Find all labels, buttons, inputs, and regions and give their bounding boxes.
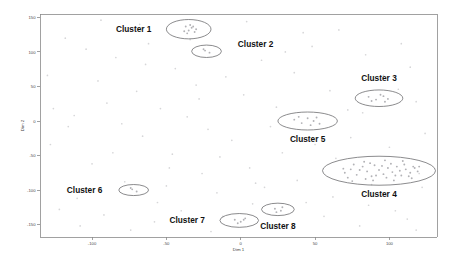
cluster-scatter-point (244, 217, 246, 219)
scatter-point (76, 197, 78, 199)
scatter-point (148, 43, 150, 45)
cluster-scatter-chart: Cluster 1Cluster 2Cluster 3Cluster 4Clus… (0, 0, 458, 265)
cluster-label: Cluster 7 (169, 215, 205, 225)
cluster-scatter-point (383, 95, 385, 97)
cluster-ellipse (262, 203, 295, 215)
cluster-scatter-point (183, 30, 185, 32)
scatter-point (332, 196, 334, 198)
scatter-point (198, 98, 200, 100)
scatter-point (350, 137, 352, 139)
cluster-scatter-point (387, 98, 389, 100)
cluster-scatter-point (380, 94, 382, 96)
scatter-plot-figure: Cluster 1Cluster 2Cluster 3Cluster 4Clus… (0, 0, 458, 265)
scatter-point (136, 90, 138, 92)
cluster-ellipse (166, 20, 211, 39)
cluster-scatter-point (359, 169, 361, 171)
cluster-scatter-point (274, 208, 276, 210)
scatter-point (216, 192, 218, 194)
cluster-scatter-point (310, 124, 312, 126)
scatter-point (219, 156, 221, 158)
y-tick-label: -50 (29, 153, 36, 158)
cluster-scatter-point (387, 167, 389, 169)
scatter-point (284, 51, 286, 53)
cluster-scatter-point (363, 161, 365, 163)
cluster-scatter-point (403, 164, 405, 166)
scatter-point (261, 59, 263, 61)
scatter-point (115, 57, 117, 59)
y-tick-label: -100 (27, 188, 36, 193)
scatter-point (323, 215, 325, 217)
cluster-scatter-point (356, 174, 358, 176)
cluster-scatter-point (275, 211, 277, 213)
scatter-point (85, 48, 87, 50)
scatter-point (112, 152, 114, 154)
cluster-label: Cluster 3 (361, 73, 397, 83)
cluster-scatter-point (408, 175, 410, 177)
cluster-ellipse (355, 90, 403, 107)
scatter-point (142, 135, 144, 137)
scatter-point (406, 218, 408, 220)
scatter-point (225, 76, 227, 78)
cluster-scatter-point (195, 28, 197, 30)
scatter-point (186, 116, 188, 118)
cluster-scatter-point (350, 168, 352, 170)
scatter-point (174, 68, 176, 70)
cluster-scatter-point (237, 222, 239, 224)
scatter-point (130, 229, 132, 231)
x-tick-label: -100 (88, 241, 97, 246)
scatter-point (282, 152, 284, 154)
cluster-scatter-point (209, 52, 211, 54)
scatter-point (293, 72, 295, 74)
cluster-scatter-point (411, 177, 413, 179)
cluster-scatter-point (384, 159, 386, 161)
y-tick-label: 50 (31, 84, 36, 89)
cluster-scatter-point (281, 206, 283, 208)
cluster-scatter-point (316, 117, 318, 119)
cluster-scatter-point (351, 180, 353, 182)
cluster-scatter-point (390, 163, 392, 165)
scatter-point (171, 153, 173, 155)
cluster-label: Cluster 1 (116, 24, 152, 34)
scatter-point (210, 231, 212, 233)
scatter-point (368, 204, 370, 206)
x-axis-title: Dim 1 (233, 247, 245, 252)
cluster-scatter-point (371, 100, 373, 102)
scatter-point (305, 202, 307, 204)
cluster-scatter-point (301, 122, 303, 124)
cluster-ellipse (278, 112, 337, 130)
cluster-scatter-point (353, 164, 355, 166)
cluster-scatter-point (194, 31, 196, 33)
scatter-point (359, 225, 361, 227)
cluster-scatter-point (319, 123, 321, 125)
cluster-scatter-point (192, 25, 194, 27)
cluster-scatter-point (375, 99, 377, 101)
cluster-scatter-point (384, 101, 386, 103)
scatter-point (421, 186, 423, 188)
scatter-point (270, 126, 272, 128)
cluster-scatter-point (240, 221, 242, 223)
cluster-scatter-point (372, 179, 374, 181)
cluster-ellipse (119, 185, 149, 196)
scatter-point (180, 210, 182, 212)
scatter-point (329, 90, 331, 92)
scatter-point (395, 210, 397, 212)
cluster-scatter-point (417, 170, 419, 172)
y-tick-label: 100 (29, 50, 37, 55)
scatter-point (73, 115, 75, 117)
cluster-scatter-point (365, 178, 367, 180)
scatter-point (252, 203, 254, 205)
scatter-point (50, 144, 52, 146)
cluster-scatter-point (362, 166, 364, 168)
cluster-scatter-point (381, 165, 383, 167)
cluster-scatter-point (374, 164, 376, 166)
scatter-point (231, 139, 233, 141)
cluster-label: Cluster 5 (290, 134, 326, 144)
cluster-scatter-point (400, 175, 402, 177)
cluster-label: Cluster 8 (260, 221, 296, 231)
cluster-scatter-point (203, 48, 205, 50)
scatter-point (195, 84, 197, 86)
scatter-point (415, 229, 417, 231)
scatter-point (311, 46, 313, 48)
cluster-ellipse (192, 45, 222, 57)
scatter-point (100, 19, 102, 21)
